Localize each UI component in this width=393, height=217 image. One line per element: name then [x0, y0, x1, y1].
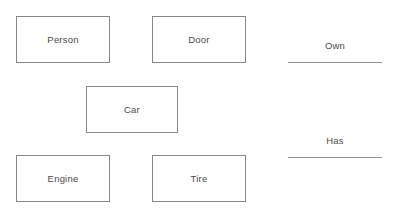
entity-label-door: Door: [188, 35, 209, 45]
relationship-underline-own: [288, 62, 382, 63]
entity-label-engine: Engine: [48, 174, 79, 184]
entity-box-tire[interactable]: Tire: [152, 155, 246, 202]
entity-label-tire: Tire: [191, 174, 208, 184]
entity-box-engine[interactable]: Engine: [16, 155, 110, 202]
relationship-own[interactable]: Own: [288, 38, 382, 63]
relationship-label-has: Has: [288, 136, 382, 146]
entity-box-car[interactable]: Car: [86, 86, 178, 133]
entity-box-door[interactable]: Door: [152, 16, 246, 63]
entity-box-person[interactable]: Person: [16, 16, 110, 63]
relationship-underline-has: [288, 157, 382, 158]
relationship-label-own: Own: [288, 41, 382, 51]
entity-label-person: Person: [47, 35, 78, 45]
relationship-has[interactable]: Has: [288, 133, 382, 158]
diagram-canvas: Person Door Car Engine Tire Own Has: [0, 0, 393, 217]
entity-label-car: Car: [124, 105, 140, 115]
